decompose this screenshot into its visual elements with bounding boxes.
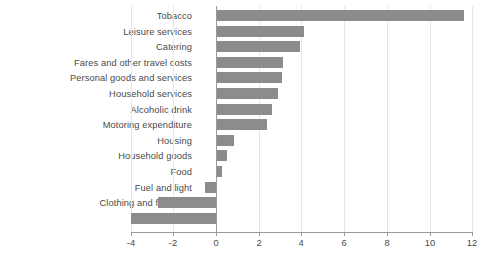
x-tick-label: 10 <box>415 238 445 249</box>
bar <box>205 182 216 193</box>
gridline-12 <box>472 6 473 232</box>
x-tick-label: 2 <box>244 238 274 249</box>
x-tick-mark <box>173 232 174 236</box>
x-tick-mark <box>131 232 132 236</box>
x-axis-line <box>131 232 473 233</box>
x-tick-mark <box>216 232 217 236</box>
x-tick-mark <box>387 232 388 236</box>
x-tick-label: -4 <box>116 238 146 249</box>
gridline-6 <box>344 6 345 232</box>
x-tick-label: 6 <box>329 238 359 249</box>
x-tick-mark <box>301 232 302 236</box>
gridline-4 <box>301 6 302 232</box>
bar <box>131 213 216 224</box>
bar <box>216 10 464 21</box>
bar-chart: TobaccoLeisure servicesCateringFares and… <box>0 0 483 255</box>
bar <box>216 119 267 130</box>
bar <box>216 88 278 99</box>
x-tick-label: 4 <box>286 238 316 249</box>
x-tick-label: 12 <box>457 238 483 249</box>
bar <box>216 135 234 146</box>
bar <box>216 26 304 37</box>
gridline--4 <box>131 6 132 232</box>
x-tick-mark <box>344 232 345 236</box>
bar <box>216 150 227 161</box>
x-tick-label: 8 <box>372 238 402 249</box>
bar <box>216 72 282 83</box>
gridline-10 <box>430 6 431 232</box>
zero-line <box>216 6 217 232</box>
x-tick-label: 0 <box>201 238 231 249</box>
bar <box>216 41 300 52</box>
x-tick-mark <box>430 232 431 236</box>
x-tick-label: -2 <box>158 238 188 249</box>
gridline-8 <box>387 6 388 232</box>
x-tick-mark <box>472 232 473 236</box>
bar <box>216 57 283 68</box>
x-tick-mark <box>259 232 260 236</box>
bar <box>158 197 216 208</box>
bar <box>216 104 272 115</box>
plot-area <box>0 0 483 255</box>
